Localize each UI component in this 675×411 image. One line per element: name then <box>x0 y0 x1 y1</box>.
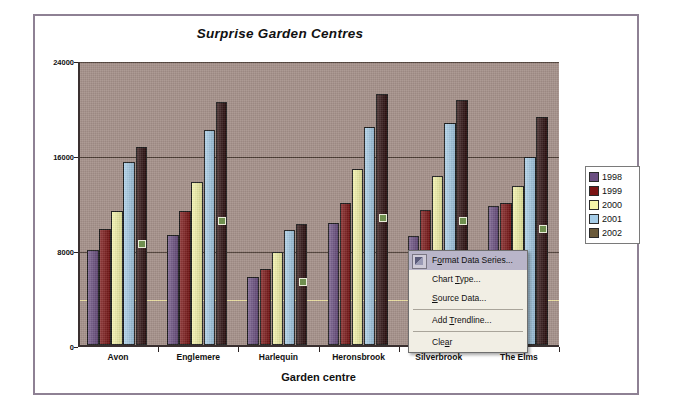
legend-item[interactable]: 2001 <box>588 212 636 226</box>
menu-separator <box>413 309 523 310</box>
bar[interactable] <box>216 102 228 345</box>
bar[interactable] <box>284 230 296 345</box>
selection-handle[interactable] <box>138 240 146 248</box>
x-axis-tick-label: The Elms <box>479 352 559 362</box>
menu-item-label: Clear <box>432 337 452 347</box>
context-menu[interactable]: Format Data Series...Chart Type...Source… <box>408 250 528 353</box>
x-axis-tick-label: Avon <box>78 352 158 362</box>
bar[interactable] <box>87 250 99 345</box>
y-axis-tick-label: 8000 <box>0 248 74 257</box>
menu-item-chart-type[interactable]: Chart Type... <box>409 270 527 289</box>
chart-title: Surprise Garden Centres <box>0 26 560 41</box>
menu-item-format-data-series[interactable]: Format Data Series... <box>409 251 527 270</box>
chart-legend[interactable]: 19981999200020012002 <box>585 166 640 244</box>
legend-item[interactable]: 2002 <box>588 226 636 240</box>
menu-item-label: Chart Type... <box>432 274 481 284</box>
bar[interactable] <box>247 277 259 345</box>
bar[interactable] <box>352 169 364 345</box>
y-axis-tick-label: 24000 <box>0 58 74 67</box>
selection-handle[interactable] <box>459 217 467 225</box>
bar[interactable] <box>260 269 272 345</box>
bar-group <box>321 62 401 345</box>
x-axis-title: Garden centre <box>78 371 559 383</box>
legend-swatch-icon <box>589 186 599 196</box>
bar[interactable] <box>136 147 148 345</box>
bar[interactable] <box>123 162 135 345</box>
bar-group <box>80 62 160 345</box>
bar[interactable] <box>191 182 203 345</box>
x-axis-tick-label: Heronsbrook <box>319 352 399 362</box>
legend-label: 2000 <box>602 200 622 210</box>
y-axis-tick-mark <box>74 62 78 63</box>
legend-swatch-icon <box>589 214 599 224</box>
legend-swatch-icon <box>589 200 599 210</box>
selection-handle[interactable] <box>379 214 387 222</box>
menu-item-label: Format Data Series... <box>432 255 513 265</box>
bar-group <box>160 62 240 345</box>
x-axis-tick-label: Silverbrook <box>399 352 479 362</box>
bar[interactable] <box>340 203 352 346</box>
legend-item[interactable]: 2000 <box>588 198 636 212</box>
y-axis-tick-mark <box>74 252 78 253</box>
x-axis-tick-mark <box>559 347 560 352</box>
bar[interactable] <box>536 117 548 345</box>
x-axis-tick-label: Harlequin <box>238 352 318 362</box>
bar[interactable] <box>296 224 308 345</box>
menu-item-clear[interactable]: Clear <box>409 333 527 352</box>
y-axis-tick-label: 0 <box>0 343 74 352</box>
bar[interactable] <box>111 211 123 345</box>
legend-swatch-icon <box>589 172 599 182</box>
menu-item-add-trendline[interactable]: Add Trendline... <box>409 311 527 330</box>
menu-separator <box>413 331 523 332</box>
selection-handle[interactable] <box>299 278 307 286</box>
bar[interactable] <box>272 252 284 345</box>
selection-handle[interactable] <box>218 217 226 225</box>
legend-label: 2001 <box>602 214 622 224</box>
menu-item-source-data[interactable]: Source Data... <box>409 289 527 308</box>
bar[interactable] <box>99 229 111 345</box>
selection-handle[interactable] <box>539 225 547 233</box>
menu-item-label: Add Trendline... <box>432 315 492 325</box>
legend-swatch-icon <box>589 228 599 238</box>
format-data-series-icon <box>412 254 427 269</box>
bar[interactable] <box>179 211 191 345</box>
legend-label: 2002 <box>602 228 622 238</box>
bar[interactable] <box>328 223 340 345</box>
legend-item[interactable]: 1999 <box>588 184 636 198</box>
bar[interactable] <box>167 235 179 345</box>
chart-window: Surprise Garden Centres Sales per centre… <box>0 0 675 411</box>
x-axis-tick-label: Englemere <box>158 352 238 362</box>
bar-group <box>240 62 320 345</box>
bar[interactable] <box>204 130 216 345</box>
y-axis-tick-label: 16000 <box>0 153 74 162</box>
y-axis-tick-mark <box>74 347 78 348</box>
legend-label: 1998 <box>602 172 622 182</box>
bar[interactable] <box>376 94 388 345</box>
menu-item-label: Source Data... <box>432 293 486 303</box>
legend-label: 1999 <box>602 186 622 196</box>
y-axis-tick-mark <box>74 157 78 158</box>
bar[interactable] <box>364 127 376 346</box>
legend-item[interactable]: 1998 <box>588 170 636 184</box>
